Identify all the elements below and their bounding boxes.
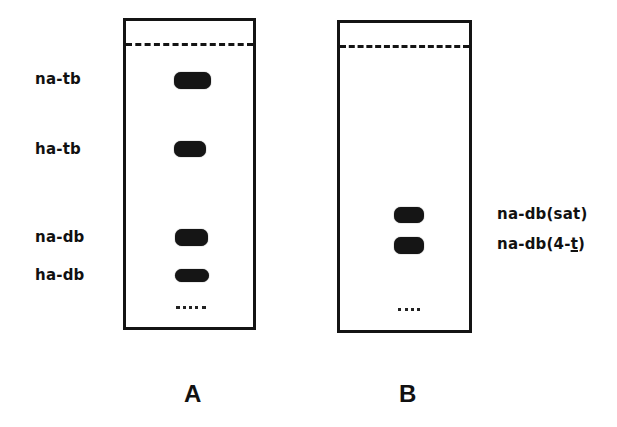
spot-na-db [175,229,208,246]
solvent-front-line-a [126,43,253,46]
spot-ha-tb [174,141,206,157]
origin-line-a [176,306,206,309]
label-na-db-sat: na-db(sat) [497,205,587,223]
label-ha-tb: ha-tb [35,140,81,158]
label-na-db-4t-suffix: ) [578,235,585,253]
spot-na-db-sat [394,207,424,223]
label-ha-db: ha-db [35,266,85,284]
spot-na-tb [174,72,211,89]
label-na-db: na-db [35,228,85,246]
spot-na-db-4t [394,237,424,254]
panel-letter-a: A [184,380,201,408]
spot-ha-db [175,269,209,282]
label-na-db-4t: na-db(4-t) [497,235,585,253]
label-na-db-4t-underlined: t [571,235,578,253]
panel-letter-b: B [399,380,416,408]
origin-line-b [398,308,420,311]
tlc-plate-b [337,20,472,333]
label-na-db-4t-prefix: na-db(4- [497,235,571,253]
label-na-tb: na-tb [35,70,81,88]
solvent-front-line-b [340,45,469,48]
tlc-plate-a [123,18,256,330]
